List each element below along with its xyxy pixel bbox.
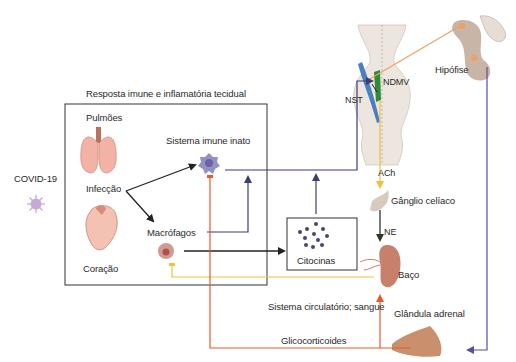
macrophages-to-innate-arrow [207,177,248,232]
covid-label: COVID-19 [14,174,57,184]
infection-to-innate-arrow [126,165,195,191]
circulatory-label: Sistema circulatório; sangue [268,302,385,312]
spleen-illustration [379,245,400,287]
innate-immune-label: Sistema imune inato [166,136,250,146]
ach-label: ACh [378,169,395,178]
glucocorticoids-label: Glicocorticoides [281,336,346,346]
infection-to-macrophages-arrow [126,191,153,221]
celiac-ganglion-illustration [370,190,389,211]
tissue-box-title: Resposta imune e inflamatória tecidual [86,89,246,99]
lungs-label: Pulmões [86,113,122,123]
nst-label: NST [345,96,363,105]
celiac-ganglion-label: Gânglio celíaco [391,196,455,206]
adrenal-gland-illustration [392,326,442,357]
macrophages-label: Macrófagos [147,228,196,238]
macrophage-cell [158,243,174,259]
covid-virus-icon [27,195,45,213]
pituitary-label: Hipófise [435,65,469,75]
ne-label: NE [384,228,396,237]
lungs-illustration [81,127,116,173]
cytokines-label: Citocinas [297,256,335,266]
ndmv-label: NDMV [383,78,409,87]
spleen-label: Baço [398,270,419,280]
adrenal-label: Glândula adrenal [394,309,465,319]
pituitary-to-adrenal-arrow [468,67,487,350]
heart-label: Coração [83,264,118,274]
diagram: COVID-19 Resposta imune e inflamatória t… [0,0,516,362]
heart-illustration [86,205,117,250]
innate-immune-cell [198,153,220,174]
infection-label: Infecção [86,184,121,194]
